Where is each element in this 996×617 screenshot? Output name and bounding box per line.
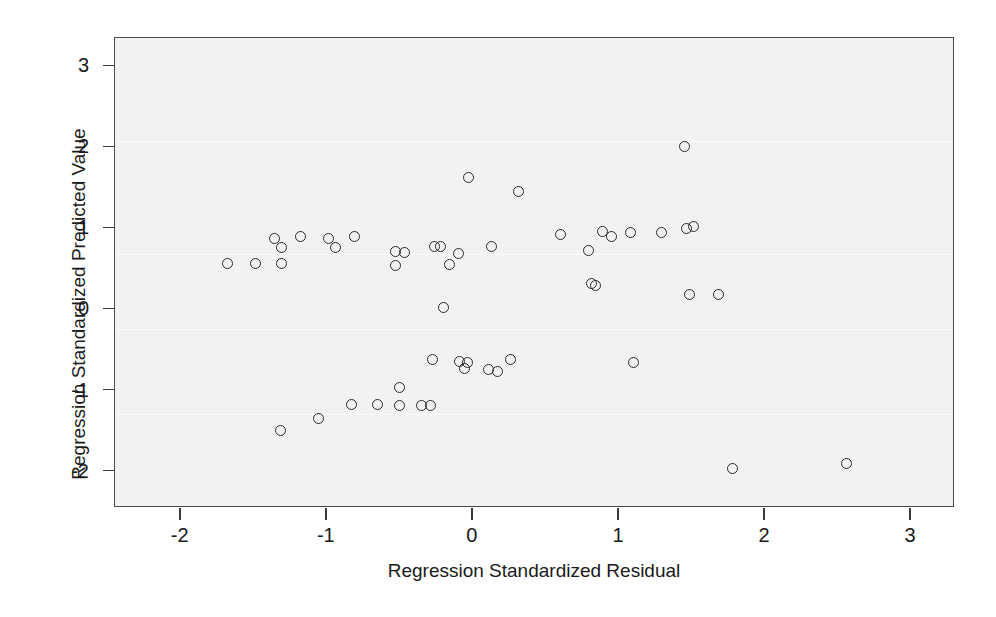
x-tick-label: 0 <box>437 524 507 546</box>
x-tick-label: -1 <box>291 524 361 546</box>
x-tick-mark <box>909 508 911 520</box>
x-tick-mark <box>179 508 181 520</box>
y-axis-title-container: Regression Standardized Predicted Value <box>40 37 41 507</box>
x-axis-title: Regression Standardized Residual <box>114 560 954 582</box>
x-tick-label: 2 <box>729 524 799 546</box>
x-tick-label: -2 <box>145 524 215 546</box>
y-axis-title: Regression Standardized Predicted Value <box>68 69 90 539</box>
x-tick-label: 3 <box>875 524 945 546</box>
x-tick-mark <box>471 508 473 520</box>
x-tick-label: 1 <box>583 524 653 546</box>
x-tick-mark <box>325 508 327 520</box>
scatter-plot-figure: -2-10123 -2-10123 Regression Standardize… <box>0 0 996 617</box>
x-tick-mark <box>763 508 765 520</box>
x-tick-mark <box>617 508 619 520</box>
x-axis-ticks: -2-10123 <box>0 0 996 617</box>
